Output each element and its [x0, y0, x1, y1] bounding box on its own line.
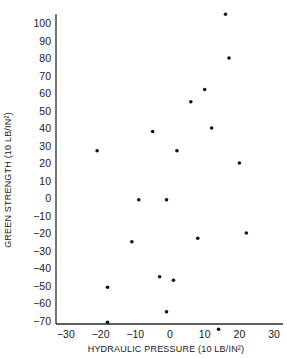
y-tick-label: 100 [33, 17, 51, 29]
data-point [165, 310, 169, 314]
data-point [227, 56, 231, 60]
y-tick-label: 30 [39, 140, 51, 152]
data-point [245, 231, 249, 235]
data-point [151, 130, 155, 134]
data-point [106, 285, 110, 289]
data-point [224, 12, 228, 16]
data-point [210, 126, 214, 130]
data-point [189, 100, 193, 104]
y-tick-label: 40 [39, 122, 51, 134]
y-axis-title: GREEN STRENGTH (10 LB/IN²) [3, 112, 13, 248]
y-tick-label: 60 [39, 87, 51, 99]
y-tick-label: 70 [39, 70, 51, 82]
y-tick-label: −50 [33, 280, 51, 292]
y-tick-label: −60 [33, 297, 51, 309]
data-point [217, 327, 221, 331]
y-axis-tick-labels: 1009080706050403020100−10−20−30−40−50−60… [33, 17, 51, 327]
x-axis-tick-labels: −30−20−100102030 [57, 328, 280, 340]
data-point [203, 88, 207, 92]
data-point [158, 275, 162, 279]
x-tick-label: −30 [57, 328, 75, 340]
y-tick-label: 0 [45, 192, 51, 204]
y-tick-label: 20 [39, 157, 51, 169]
x-tick-label: −10 [126, 328, 144, 340]
scatter-chart: 1009080706050403020100−10−20−30−40−50−60… [0, 0, 287, 359]
data-point [106, 320, 110, 324]
data-point [172, 278, 176, 282]
data-point [95, 149, 99, 153]
y-tick-label: −20 [33, 227, 51, 239]
y-tick-label: −30 [33, 245, 51, 257]
data-point [130, 240, 134, 244]
x-tick-label: 30 [268, 328, 280, 340]
x-tick-label: −20 [92, 328, 110, 340]
x-tick-label: 0 [167, 328, 173, 340]
data-point [175, 149, 179, 153]
data-point [238, 161, 242, 165]
y-tick-label: −40 [33, 262, 51, 274]
data-point [165, 198, 169, 202]
y-tick-label: −10 [33, 210, 51, 222]
data-points [95, 12, 248, 331]
y-tick-label: 90 [39, 35, 51, 47]
y-tick-label: 50 [39, 105, 51, 117]
y-tick-label: 80 [39, 52, 51, 64]
x-axis-title: HYDRAULIC PRESSURE (10 LB/IN²) [88, 344, 245, 354]
data-point [137, 198, 141, 202]
x-tick-label: 20 [234, 328, 246, 340]
x-tick-label: 10 [199, 328, 211, 340]
data-point [196, 236, 200, 240]
y-tick-label: 10 [39, 175, 51, 187]
y-tick-label: −70 [33, 315, 51, 327]
